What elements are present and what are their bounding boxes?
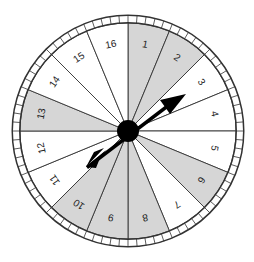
spinner-wheel: 12345678910111213141516 <box>0 0 254 262</box>
hub <box>117 120 139 142</box>
